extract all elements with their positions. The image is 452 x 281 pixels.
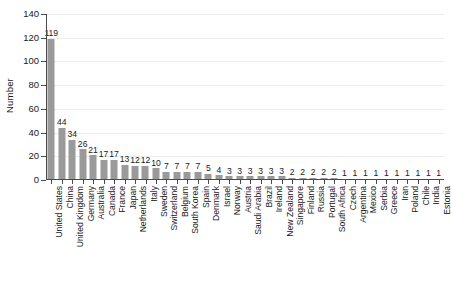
x-axis-tick-label-text: Canada bbox=[108, 186, 117, 216]
x-axis-tick-label-text: United States bbox=[56, 186, 65, 238]
x-axis-tick-label-text: Poland bbox=[412, 186, 421, 213]
x-axis-tick-label-text: Greece bbox=[391, 186, 400, 214]
x-axis-tick-label-text: Argentina bbox=[359, 186, 368, 223]
x-axis-tick-label-text: Japan bbox=[129, 186, 138, 209]
x-axis-tick-label-text: Germany bbox=[87, 186, 96, 221]
x-axis-tick-label-text: Singapore bbox=[296, 186, 305, 225]
x-axis-tick-label: Norway bbox=[229, 157, 238, 186]
x-axis-tick-label: Singapore bbox=[292, 147, 301, 186]
x-axis-tick-label-text: Finland bbox=[307, 186, 316, 214]
x-axis-tick-label: Chile bbox=[418, 166, 427, 186]
y-axis-title: Number bbox=[2, 0, 16, 190]
x-axis-tick-label-text: United Kingdom bbox=[76, 186, 85, 247]
x-axis-tick-label-text: Serbia bbox=[380, 186, 389, 211]
x-axis-tick-label-text: Czech bbox=[349, 186, 358, 210]
x-axis-tick-label: Denmark bbox=[208, 151, 217, 186]
y-axis-tick-label: 40 bbox=[28, 128, 39, 138]
y-axis-tick-label: 0 bbox=[34, 175, 39, 185]
x-axis-tick-label: Iran bbox=[397, 171, 406, 186]
y-axis-tick-label: 120 bbox=[23, 33, 39, 43]
x-axis-tick-label: Belgium bbox=[177, 155, 186, 186]
x-axis-tick-label-text: Denmark bbox=[213, 186, 222, 221]
x-axis-tick-label-text: Estonia bbox=[443, 186, 452, 215]
x-axis-tick-label: Australia bbox=[93, 153, 102, 186]
x-axis-tick-label: Russia bbox=[313, 160, 322, 186]
x-axis-tick-label-text: Iran bbox=[401, 186, 410, 201]
x-axis-tick-label: Greece bbox=[386, 158, 395, 186]
y-axis-title-text: Number bbox=[4, 78, 15, 113]
x-axis-tick-label-text: Saudi Arabia bbox=[255, 186, 264, 235]
x-axis-tick-label-text: Ireland bbox=[275, 186, 284, 212]
x-axis-tick-label-text: Sweden bbox=[160, 186, 169, 217]
x-axis-tick-label: India bbox=[428, 167, 437, 186]
x-axis-tick-label-text: China bbox=[66, 186, 75, 208]
x-axis-tick-label: France bbox=[114, 159, 123, 186]
x-axis-tick-label: Estonia bbox=[439, 157, 448, 186]
x-axis-tick-label: South Africa bbox=[334, 140, 343, 186]
x-axis-tick-label-text: Italy bbox=[150, 186, 159, 202]
x-axis-tick-label: Serbia bbox=[376, 161, 385, 186]
x-axis-tick-label: Brazil bbox=[261, 165, 270, 187]
x-axis-tick-label: Canada bbox=[104, 156, 113, 186]
x-axis-tick-label: Czech bbox=[345, 162, 354, 186]
x-axis-tick-label-text: South Korea bbox=[192, 186, 201, 234]
x-axis-tick-label-text: Australia bbox=[97, 186, 106, 219]
x-axis-tick-label-text: Norway bbox=[234, 186, 243, 215]
x-axis-tick-label-text: Switzerland bbox=[171, 186, 180, 230]
x-axis-tick-label-text: Brazil bbox=[265, 186, 274, 208]
x-axis-tick-label: New Zealand bbox=[282, 135, 291, 186]
x-axis-tick-label-text: Belgium bbox=[181, 186, 190, 217]
y-axis-tick-label: 20 bbox=[28, 152, 39, 162]
x-axis-tick-label-text: Mexico bbox=[370, 186, 379, 213]
x-axis-tick-label-text: South Africa bbox=[338, 186, 347, 232]
x-axis-tick-label: Mexico bbox=[365, 159, 374, 186]
x-axis-tick-label-text: Portugal bbox=[328, 186, 337, 218]
x-axis-labels: United StatesChinaUnited KingdomGermanyA… bbox=[46, 186, 444, 278]
x-axis-tick-label-text: Chile bbox=[422, 186, 431, 206]
x-axis-tick-label: Japan bbox=[125, 163, 134, 186]
x-axis-tick-label: Portugal bbox=[324, 154, 333, 186]
x-axis-tick-label-text: New Zealand bbox=[286, 186, 295, 237]
x-axis-tick-label: South Korea bbox=[187, 138, 196, 186]
x-axis-tick-label: Poland bbox=[407, 159, 416, 186]
x-axis-tick-label-text: India bbox=[433, 186, 442, 205]
x-axis-tick-label: Saudi Arabia bbox=[250, 137, 259, 186]
y-axis-tick-label: 60 bbox=[28, 104, 39, 114]
x-axis-tick-label: Netherlands bbox=[135, 140, 144, 186]
x-axis-tick-label: Finland bbox=[303, 158, 312, 186]
x-axis-tick-label: Austria bbox=[240, 159, 249, 186]
x-axis-tick-label: Germany bbox=[83, 151, 92, 186]
x-axis-tick-label: Israel bbox=[219, 165, 228, 186]
y-axis-tick-label: 140 bbox=[23, 9, 39, 19]
y-axis-tick-label: 100 bbox=[23, 57, 39, 67]
x-axis-tick-label: Argentina bbox=[355, 149, 364, 186]
x-axis-tick-label-text: Netherlands bbox=[139, 186, 148, 232]
x-axis-tick-label: Sweden bbox=[156, 155, 165, 186]
x-axis-tick-label-text: Spain bbox=[202, 186, 211, 208]
x-axis-tick-label-text: Austria bbox=[244, 186, 253, 213]
x-axis-tick-label: United Kingdom bbox=[72, 125, 81, 186]
x-axis-tick-label-text: France bbox=[118, 186, 127, 213]
x-axis-tick-label: Italy bbox=[146, 170, 155, 186]
x-axis-tick-label: United States bbox=[51, 134, 60, 186]
x-axis-tick-label: China bbox=[62, 164, 71, 186]
x-axis-tick-label: Switzerland bbox=[166, 142, 175, 186]
x-axis-tick-label-text: Russia bbox=[317, 186, 326, 212]
x-axis-tick-label: Spain bbox=[198, 164, 207, 186]
y-axis-tick-label: 80 bbox=[28, 80, 39, 90]
x-axis-tick-label-text: Israel bbox=[223, 186, 232, 207]
x-axis-tick-label: Ireland bbox=[271, 160, 280, 186]
